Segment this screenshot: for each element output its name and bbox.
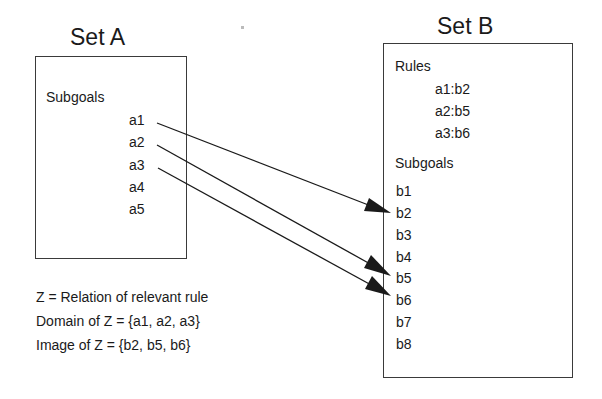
arrowhead-icon [364,255,391,276]
note-relation: Z = Relation of relevant rule [36,289,208,305]
arrow-a2-b5 [157,145,372,265]
arrow-a3-b6 [158,168,373,286]
arrowhead-icon [364,198,391,213]
arrow-a1-b2 [157,123,371,206]
note-image: Image of Z = {b2, b5, b6} [36,337,191,353]
note-domain: Domain of Z = {a1, a2, a3} [36,313,200,329]
arrowhead-icon [365,276,391,296]
